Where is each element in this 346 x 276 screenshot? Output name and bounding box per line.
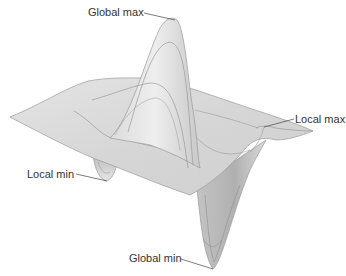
label-local-min: Local min [27, 168, 74, 180]
leader-global-max [144, 13, 175, 20]
label-global-min: Global min [129, 252, 182, 264]
leader-global-min [181, 259, 213, 269]
surface-plot [0, 0, 346, 276]
label-local-max: Local max [295, 113, 345, 125]
label-global-max: Global max [88, 6, 144, 18]
